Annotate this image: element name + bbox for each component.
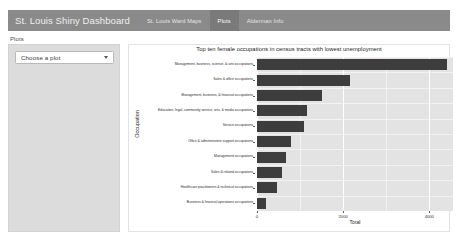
app-page: St. Louis Shiny Dashboard St. Louis Ward…	[0, 0, 458, 246]
y-axis-tick-mark	[253, 111, 255, 112]
y-axis-tick-label: Management, business, science, & arts oc…	[175, 63, 253, 67]
x-axis-tick-mark	[343, 211, 344, 213]
y-axis-tick-label: Management, business, & financial occupa…	[181, 94, 253, 98]
y-axis-tick-mark	[253, 188, 255, 189]
x-axis-tick-mark	[429, 211, 430, 213]
bar	[257, 105, 307, 116]
bar	[257, 90, 322, 101]
tab-alderman-info[interactable]: Alderman Info	[239, 10, 292, 31]
tab-st-louis-ward-maps[interactable]: St. Louis Ward Maps	[139, 10, 210, 31]
x-axis-tick-mark	[257, 211, 258, 213]
x-axis-tick-label: 4000	[425, 214, 434, 219]
y-axis-tick-label: Office & administrative support occupati…	[188, 140, 253, 144]
plot-select-value: Choose a plot	[21, 54, 100, 61]
y-axis-tick-label: Management occupations	[214, 155, 253, 159]
y-axis-tick-mark	[253, 126, 255, 127]
y-axis-tick-mark	[253, 157, 255, 158]
bar	[257, 152, 286, 163]
y-axis-tick-mark	[253, 65, 255, 66]
plot-select[interactable]: Choose a plot	[15, 51, 114, 64]
navbar-items: St. Louis Ward Maps Plots Alderman Info	[139, 10, 292, 31]
bar	[257, 167, 282, 178]
navbar-brand[interactable]: St. Louis Shiny Dashboard	[8, 10, 139, 31]
bar-chart: Occupation Management, business, science…	[129, 45, 451, 233]
bar	[257, 182, 277, 193]
bar	[257, 136, 291, 147]
y-axis-tick-label: Business & financial operations occupati…	[187, 201, 253, 205]
chevron-down-icon	[104, 56, 108, 59]
plot-area	[257, 57, 453, 211]
x-axis-tick-label: 0	[256, 214, 258, 219]
tab-plots[interactable]: Plots	[210, 10, 239, 31]
bar	[257, 59, 447, 70]
y-axis-tick-label: Sales & office occupations	[213, 78, 253, 82]
y-axis-tick-label: Sales & related occupations	[211, 171, 253, 175]
x-axis-title: Total	[257, 219, 453, 225]
y-axis-tick-mark	[253, 142, 255, 143]
y-axis-tick-labels: Management, business, science, & arts oc…	[137, 57, 255, 211]
y-axis-tick-mark	[253, 96, 255, 97]
bar	[257, 75, 350, 86]
y-axis-tick-mark	[253, 203, 255, 204]
y-axis-tick-label: Education, legal, community service, art…	[158, 109, 253, 113]
bar	[257, 198, 266, 209]
bar	[257, 121, 304, 132]
y-axis-tick-label: Service occupations	[223, 124, 253, 128]
navbar: St. Louis Shiny Dashboard St. Louis Ward…	[8, 10, 450, 31]
sidebar-heading: Plots	[10, 36, 24, 42]
y-axis-tick-mark	[253, 173, 255, 174]
x-axis-tick-label: 2000	[338, 214, 347, 219]
y-axis-tick-mark	[253, 80, 255, 81]
plot-panel: Top ten female occupations in census tra…	[128, 44, 450, 232]
y-axis-tick-label: Healthcare practitioners & technical occ…	[181, 186, 253, 190]
sidebar-panel: Choose a plot	[8, 44, 120, 232]
gridline-major	[429, 57, 430, 211]
